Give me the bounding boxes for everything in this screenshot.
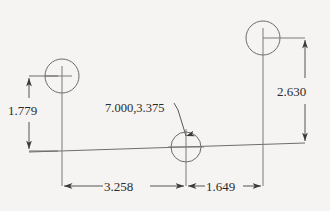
left-circle-feature (45, 59, 79, 186)
middle-circle-feature (168, 129, 204, 186)
dimension-1779: 1.779 (8, 76, 58, 151)
coordinate-note: 7.000,3.375 (105, 101, 186, 136)
drawing-svg: 1.779 2.630 3.258 1.649 7.000,3.375 (0, 0, 330, 211)
dimension-1779-label: 1.779 (8, 103, 37, 118)
dimension-3258: 3.258 (64, 179, 184, 194)
baseline (29, 143, 305, 152)
coordinate-note-leader-shoulder (174, 103, 178, 110)
dimension-1649-label: 1.649 (206, 179, 235, 194)
coordinate-note-label: 7.000,3.375 (105, 101, 164, 115)
right-circle-feature (246, 21, 305, 186)
dimension-2630-label: 2.630 (277, 84, 306, 99)
dimension-2630: 2.630 (277, 40, 306, 141)
dimension-1649: 1.649 (188, 179, 261, 194)
dimension-3258-label: 3.258 (104, 179, 133, 194)
baseline-geometry (29, 143, 305, 152)
technical-drawing-canvas: 1.779 2.630 3.258 1.649 7.000,3.375 (0, 0, 330, 211)
